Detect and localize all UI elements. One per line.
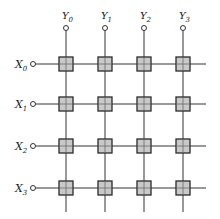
terminal-x1 — [31, 102, 36, 107]
terminal-y2 — [142, 26, 147, 31]
crosspoint-x0-y1 — [98, 57, 112, 71]
column-label-y3: Y3 — [179, 10, 191, 24]
crosspoint-x1-y1 — [98, 97, 112, 111]
terminal-y1 — [103, 26, 108, 31]
crosspoint-x0-y3 — [176, 57, 190, 71]
row-label-x1: X1 — [14, 98, 27, 113]
crossbar-diagram: Y0Y1Y2Y3X0X1X2X3 — [0, 0, 220, 219]
column-label-y1: Y1 — [101, 10, 112, 24]
column-label-y0: Y0 — [62, 10, 74, 24]
terminal-x3 — [31, 186, 36, 191]
crosspoint-x2-y2 — [137, 139, 151, 153]
crosspoint-x3-y3 — [176, 181, 190, 195]
crosspoint-x1-y3 — [176, 97, 190, 111]
terminal-y3 — [181, 26, 186, 31]
row-label-x3: X3 — [14, 182, 28, 197]
crosspoint-x2-y0 — [59, 139, 73, 153]
crosspoint-x1-y2 — [137, 97, 151, 111]
crosspoint-x2-y1 — [98, 139, 112, 153]
terminal-x0 — [31, 62, 36, 67]
crosspoint-x3-y1 — [98, 181, 112, 195]
row-label-x2: X2 — [14, 140, 28, 155]
crosspoint-x0-y2 — [137, 57, 151, 71]
crosspoint-x0-y0 — [59, 57, 73, 71]
crosspoint-x2-y3 — [176, 139, 190, 153]
crosspoint-x1-y0 — [59, 97, 73, 111]
column-label-y2: Y2 — [140, 10, 152, 24]
crosspoint-x3-y2 — [137, 181, 151, 195]
crosspoint-x3-y0 — [59, 181, 73, 195]
row-label-x0: X0 — [14, 58, 28, 73]
terminal-x2 — [31, 144, 36, 149]
terminal-y0 — [64, 26, 69, 31]
